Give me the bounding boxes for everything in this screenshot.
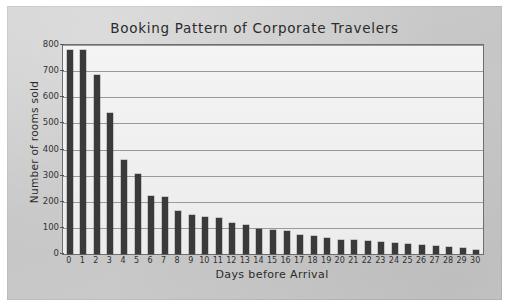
x-tick-label: 13	[238, 255, 252, 269]
y-tick-label: 700	[43, 65, 59, 75]
y-tick-mark	[60, 253, 64, 254]
x-tick-label: 22	[360, 255, 374, 269]
y-tick-mark	[60, 201, 64, 202]
x-tick-label: 14	[252, 255, 266, 269]
bar	[473, 250, 479, 254]
bar-slot	[307, 45, 321, 254]
bar-slot	[375, 45, 389, 254]
bar	[324, 238, 330, 254]
bar	[189, 215, 195, 254]
y-tick-mark	[60, 44, 64, 45]
y-tick-label: 100	[43, 222, 59, 232]
y-tick-label: 200	[43, 196, 59, 206]
plot-area	[62, 44, 484, 255]
bar-slot	[442, 45, 456, 254]
y-axis-title: Number of rooms sold	[28, 67, 40, 217]
x-tick-label: 23	[374, 255, 388, 269]
bar	[297, 235, 303, 254]
x-tick-label: 25	[401, 255, 415, 269]
bar-slot	[239, 45, 253, 254]
x-tick-label: 19	[319, 255, 333, 269]
bar	[243, 225, 249, 254]
bar-slot	[185, 45, 199, 254]
y-tick-mark	[60, 175, 64, 176]
bar	[80, 50, 86, 254]
y-tick-mark	[60, 70, 64, 71]
x-tick-label: 2	[89, 255, 103, 269]
x-tick-label: 29	[455, 255, 469, 269]
y-tick-mark	[60, 96, 64, 97]
bar	[405, 244, 411, 254]
bar	[162, 197, 168, 254]
x-tick-label: 4	[116, 255, 130, 269]
x-tick-label: 24	[387, 255, 401, 269]
x-tick-label: 7	[157, 255, 171, 269]
bar	[365, 241, 371, 254]
bar-slot	[429, 45, 443, 254]
x-tick-label: 6	[143, 255, 157, 269]
x-tick-label: 21	[346, 255, 360, 269]
x-tick-label: 16	[279, 255, 293, 269]
bar	[446, 247, 452, 254]
x-tick-label: 11	[211, 255, 225, 269]
x-tick-label: 20	[333, 255, 347, 269]
x-tick-label: 30	[468, 255, 482, 269]
bar-slot	[131, 45, 145, 254]
y-tick-mark	[60, 149, 64, 150]
bar-slot	[415, 45, 429, 254]
bar-slot	[280, 45, 294, 254]
bar	[175, 211, 181, 254]
bar-slot	[171, 45, 185, 254]
bar	[148, 196, 154, 254]
x-tick-label: 17	[292, 255, 306, 269]
x-axis-ticks: 0123456789101112131415161718192021222324…	[62, 255, 482, 269]
x-axis-title: Days before Arrival	[62, 268, 482, 281]
bar	[256, 229, 262, 254]
scanned-page-background: Booking Pattern of Corporate Travelers 0…	[7, 6, 502, 300]
bar-slot	[402, 45, 416, 254]
bar-slot	[90, 45, 104, 254]
y-tick-mark	[60, 227, 64, 228]
bar	[135, 174, 141, 254]
x-tick-label: 26	[414, 255, 428, 269]
bar-series	[63, 45, 483, 254]
bar-slot	[456, 45, 470, 254]
bar-slot	[212, 45, 226, 254]
y-tick-label: 300	[43, 170, 59, 180]
bar	[378, 242, 384, 254]
y-tick-label: 400	[43, 144, 59, 154]
chart-title: Booking Pattern of Corporate Travelers	[7, 20, 502, 36]
x-tick-label: 27	[428, 255, 442, 269]
y-tick-mark	[60, 122, 64, 123]
bar	[460, 248, 466, 254]
bar-slot	[469, 45, 483, 254]
bar	[270, 230, 276, 254]
bar-slot	[334, 45, 348, 254]
x-tick-label: 3	[103, 255, 117, 269]
bar	[419, 245, 425, 254]
bar-slot	[77, 45, 91, 254]
y-tick-label: 0	[54, 248, 59, 258]
bar	[338, 240, 344, 254]
y-tick-label: 600	[43, 91, 59, 101]
x-tick-label: 9	[184, 255, 198, 269]
y-tick-label: 800	[43, 39, 59, 49]
bar	[351, 240, 357, 254]
bar-slot	[63, 45, 77, 254]
bar	[433, 246, 439, 254]
x-tick-label: 12	[225, 255, 239, 269]
x-tick-label: 8	[170, 255, 184, 269]
bar-slot	[361, 45, 375, 254]
bar	[392, 243, 398, 254]
bar-slot	[253, 45, 267, 254]
bar-slot	[117, 45, 131, 254]
bar-slot	[144, 45, 158, 254]
x-tick-label: 10	[197, 255, 211, 269]
bar	[202, 217, 208, 254]
x-tick-label: 0	[62, 255, 76, 269]
x-tick-label: 15	[265, 255, 279, 269]
bar	[67, 50, 73, 254]
bar	[94, 75, 100, 254]
x-tick-label: 28	[441, 255, 455, 269]
bar-slot	[226, 45, 240, 254]
